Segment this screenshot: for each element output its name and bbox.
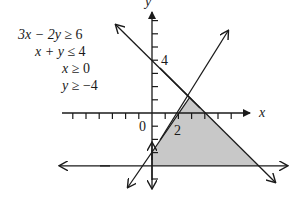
x-tick-label-2: 2 — [174, 123, 181, 138]
inequality-graph: x y 0 2 4 3x − 2y ≥ 6 x + y ≤ 4 x ≥ 0 y … — [0, 0, 289, 206]
x-axis-label: x — [258, 105, 266, 120]
y-axis-label: y — [143, 0, 152, 9]
feasible-region — [152, 97, 258, 166]
inequality-1: 3x − 2y ≥ 6 — [18, 28, 83, 42]
inequality-2: x + y ≤ 4 — [35, 45, 86, 59]
origin-label: 0 — [139, 119, 146, 134]
y-tick-label-4: 4 — [161, 53, 168, 68]
inequality-3: x ≥ 0 — [62, 62, 90, 76]
inequality-4: y ≥ −4 — [62, 79, 98, 93]
